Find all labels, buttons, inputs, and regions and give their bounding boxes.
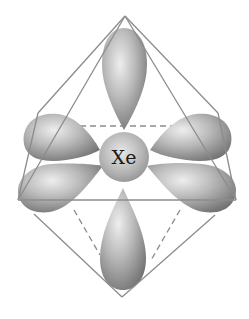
xe-octahedral-diagram: Xe (0, 0, 249, 319)
diagram-canvas: Xe (0, 0, 249, 319)
lobe-lower-right (147, 163, 236, 213)
back-edge-lower-left (74, 210, 100, 255)
xe-atom-label: Xe (112, 146, 137, 168)
lobe-upper-left (24, 114, 100, 161)
lobe-lower-left (18, 164, 103, 213)
back-edge-lower-right (150, 210, 180, 262)
lobe-bottom (100, 188, 146, 290)
